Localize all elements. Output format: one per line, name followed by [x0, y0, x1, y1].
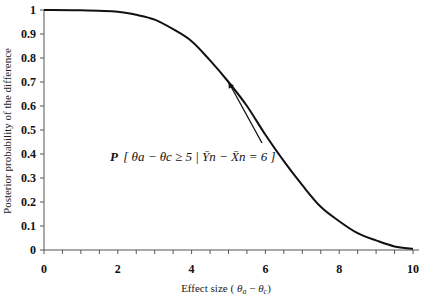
x-tick-label: 2	[115, 262, 121, 276]
x-tick-label: 6	[262, 262, 268, 276]
y-tick-label: 0.7	[21, 75, 36, 89]
y-tick-label: 0.9	[21, 27, 36, 41]
annotation-text: P [ θa − θc ≥ 5 | Ȳn − X̄n = 6 ]	[110, 149, 276, 164]
y-tick-label: 0.8	[21, 51, 36, 65]
y-axis-title: Posterior probability of the difference	[1, 48, 13, 214]
x-axis: 0246810	[41, 250, 419, 276]
x-tick-label: 10	[407, 262, 419, 276]
annotation: P [ θa − θc ≥ 5 | Ȳn − X̄n = 6 ]	[110, 82, 276, 164]
y-tick-label: 0	[30, 243, 36, 257]
x-tick-label: 0	[41, 262, 47, 276]
x-tick-label: 8	[336, 262, 342, 276]
line-chart: 00.10.20.30.40.50.60.70.80.91 0246810 P …	[0, 0, 432, 297]
y-tick-label: 0.1	[21, 219, 36, 233]
y-axis: 00.10.20.30.40.50.60.70.80.91	[21, 3, 44, 257]
y-tick-label: 0.3	[21, 171, 36, 185]
y-tick-label: 0.2	[21, 195, 36, 209]
y-tick-label: 1	[30, 3, 36, 17]
posterior-curve	[44, 10, 413, 249]
y-tick-label: 0.4	[21, 147, 36, 161]
x-axis-title: Effect size (θa − θc)	[181, 282, 271, 296]
y-tick-label: 0.6	[21, 99, 36, 113]
x-tick-label: 4	[189, 262, 195, 276]
y-tick-label: 0.5	[21, 123, 36, 137]
annotation-arrow	[229, 82, 263, 143]
